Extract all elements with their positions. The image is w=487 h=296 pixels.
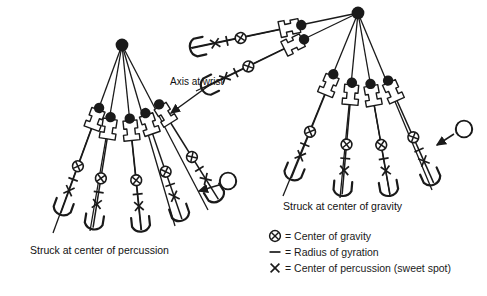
dash-icon bbox=[265, 245, 285, 259]
circle-x-icon bbox=[265, 229, 285, 243]
axis-at-wrist-label: Axis at wrist bbox=[170, 76, 223, 87]
bat-right-6 bbox=[378, 72, 443, 188]
pivot-axis-left bbox=[116, 39, 129, 52]
panel-struck-at-center-of-percussion bbox=[52, 39, 237, 233]
legend-label-center-of-percussion: = Center of percussion (sweet spot) bbox=[285, 260, 451, 276]
bat-left-2 bbox=[84, 111, 120, 231]
legend-item-center-of-gravity: = Center of gravity bbox=[265, 228, 451, 244]
legend-item-center-of-percussion: = Center of percussion (sweet spot) bbox=[265, 260, 451, 276]
x-mark-icon bbox=[265, 261, 285, 275]
ball-left bbox=[220, 173, 237, 190]
bat-left-5 bbox=[149, 95, 227, 205]
pivot-axis-right bbox=[352, 7, 365, 20]
caption-right: Struck at center of gravity bbox=[283, 200, 402, 212]
panel-struck-at-center-of-gravity bbox=[188, 7, 472, 198]
bat-right-4 bbox=[333, 77, 361, 197]
bat-right-3 bbox=[282, 66, 343, 183]
legend-label-radius-of-gyration: = Radius of gyration bbox=[285, 244, 379, 260]
bat-left-1 bbox=[52, 100, 110, 218]
caption-left: Struck at center of percussion bbox=[30, 244, 169, 256]
legend: = Center of gravity = Radius of gyration… bbox=[265, 228, 451, 276]
ball-arrow-right bbox=[437, 134, 454, 145]
legend-item-radius-of-gyration: = Radius of gyration bbox=[265, 244, 451, 260]
ball-arrow-left bbox=[199, 185, 219, 191]
legend-label-center-of-gravity: = Center of gravity bbox=[285, 228, 371, 244]
ball-right bbox=[456, 121, 473, 138]
